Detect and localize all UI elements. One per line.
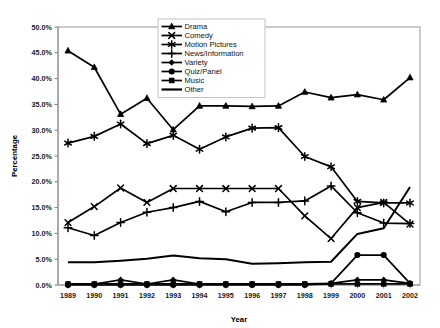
legend-item-label: Motion Pictures — [185, 40, 238, 49]
y-axis-tick-label: 0.0% — [36, 281, 53, 290]
data-point — [118, 281, 124, 287]
x-axis-tick-label: 2000 — [349, 291, 365, 300]
legend-item-label: News/Information — [185, 49, 244, 58]
y-axis-tick-label: 25.0% — [32, 152, 53, 161]
legend-item-label: Music — [185, 76, 205, 85]
x-axis-tick-label: 2002 — [402, 291, 418, 300]
y-axis-tick-label: 50.0% — [32, 23, 53, 32]
x-axis-tick-label: 1989 — [60, 291, 76, 300]
data-point — [65, 281, 71, 287]
legend-item-comedy[interactable]: Comedy — [162, 31, 213, 40]
x-axis-tick-label: 1992 — [139, 291, 155, 300]
legend-item-label: Other — [185, 85, 204, 94]
legend-marker-circle-icon — [169, 68, 175, 74]
x-axis-title: Year — [231, 315, 247, 324]
y-axis-tick-label: 40.0% — [32, 74, 53, 83]
x-axis-tick-label: 1991 — [113, 291, 129, 300]
legend-item-label: Comedy — [185, 31, 213, 40]
chart-canvas: 0.0%5.0%10.0%15.0%20.0%25.0%30.0%35.0%40… — [0, 0, 440, 328]
x-axis-tick-label: 1994 — [192, 291, 208, 300]
data-point — [381, 281, 387, 287]
x-axis-tick-label: 1993 — [165, 291, 181, 300]
legend-item-label: Drama — [185, 22, 209, 31]
legend-item-label: Quiz/Panel — [185, 67, 222, 76]
x-axis-tick-label: 1998 — [297, 291, 313, 300]
y-axis-tick-label: 35.0% — [32, 100, 53, 109]
data-point — [92, 281, 98, 287]
legend-item-label: Variety — [185, 58, 208, 67]
data-point — [302, 281, 308, 287]
y-axis-tick-label: 30.0% — [32, 126, 53, 135]
data-point — [170, 281, 176, 287]
y-axis-tick-label: 10.0% — [32, 229, 53, 238]
chart-legend: DramaComedyMotion PicturesNews/Informati… — [158, 19, 265, 98]
data-point — [249, 281, 255, 287]
y-axis-tick-label: 45.0% — [32, 48, 53, 57]
x-axis-tick-label: 1990 — [86, 291, 102, 300]
x-axis-tick-label: 1999 — [323, 291, 339, 300]
x-axis-tick-label: 1997 — [270, 291, 286, 300]
y-axis-tick-label: 5.0% — [36, 255, 53, 264]
data-point — [276, 281, 282, 287]
x-axis-tick-label: 1996 — [244, 291, 260, 300]
data-point — [354, 252, 360, 258]
line-chart: 0.0%5.0%10.0%15.0%20.0%25.0%30.0%35.0%40… — [0, 0, 440, 328]
legend-marker-square-icon — [169, 78, 175, 84]
data-point — [197, 281, 203, 287]
data-point — [328, 281, 334, 287]
y-axis-tick-label: 15.0% — [32, 203, 53, 212]
y-axis-title: Percentage — [10, 134, 19, 177]
data-point — [223, 281, 229, 287]
x-axis-tick-label: 1995 — [218, 291, 234, 300]
data-point — [381, 252, 387, 258]
data-point — [407, 281, 413, 287]
x-axis-tick-label: 2001 — [376, 291, 392, 300]
data-point — [355, 281, 361, 287]
data-point — [144, 281, 150, 287]
y-axis-tick-label: 20.0% — [32, 177, 53, 186]
